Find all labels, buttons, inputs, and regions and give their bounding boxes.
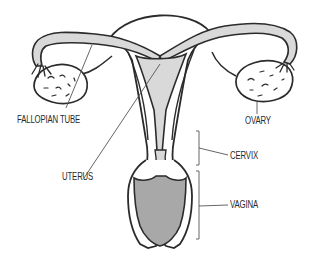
left-ovary xyxy=(34,65,87,104)
cervix-bracket xyxy=(196,131,199,165)
label-cervix: CERVIX xyxy=(230,151,258,161)
right-ovarian-ligament xyxy=(212,52,236,76)
label-vagina: VAGINA xyxy=(230,200,258,210)
label-uterus: UTERUS xyxy=(62,172,93,182)
cervix-leader-line xyxy=(199,148,228,155)
label-ovary: OVARY xyxy=(245,116,271,126)
vagina-bracket xyxy=(196,171,199,239)
vagina-leader-line xyxy=(199,205,228,206)
right-ovary xyxy=(236,61,293,102)
reproductive-system-diagram: FALLOPIAN TUBE OVARY UTERUS CERVIX VAGIN… xyxy=(0,0,315,260)
label-fallopian-tube: FALLOPIAN TUBE xyxy=(17,115,80,125)
anatomy-illustration xyxy=(0,0,315,260)
